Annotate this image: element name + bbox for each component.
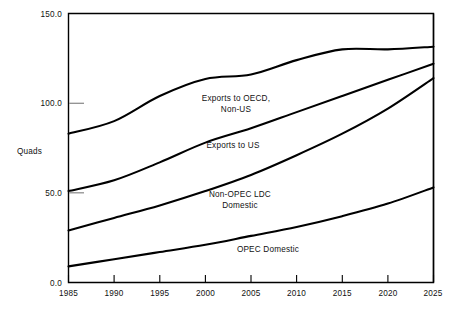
series-label-exports-to-us: Exports to US: [206, 141, 259, 150]
series-label-exports-oecd-line1: Exports to OECD,: [202, 94, 270, 103]
xtick-label-2025: 2025: [423, 289, 442, 298]
xtick-label-2020: 2020: [378, 289, 397, 298]
series-label-non-opec-ldc-line1: Non-OPEC LDC: [209, 190, 271, 199]
ytick-label-150: 150.0: [41, 10, 63, 19]
series-label-non-opec-ldc-line2: Domestic: [222, 201, 258, 210]
xtick-label-2005: 2005: [241, 289, 260, 298]
y-axis-title: Quads: [17, 147, 42, 156]
series-line-exports-oecd-non-us: [69, 47, 434, 134]
series-label-exports-oecd-line2: Non-US: [221, 105, 252, 114]
xtick-label-2015: 2015: [333, 289, 352, 298]
ytick-label-100: 100.0: [41, 99, 63, 108]
line-chart: 150.0 100.0 50.0 0.0 Quads 1985 1990 199…: [0, 0, 453, 315]
xtick-label-1985: 1985: [59, 289, 78, 298]
series-line-exports-to-us: [69, 64, 434, 191]
xtick-label-1990: 1990: [105, 289, 124, 298]
chart-figure: 150.0 100.0 50.0 0.0 Quads 1985 1990 199…: [0, 0, 453, 315]
xtick-label-1995: 1995: [150, 289, 169, 298]
xtick-label-2000: 2000: [196, 289, 215, 298]
series-label-opec-domestic: OPEC Domestic: [237, 245, 299, 254]
xtick-label-2010: 2010: [287, 289, 306, 298]
series-line-opec-domestic: [69, 187, 434, 266]
ytick-label-50: 50.0: [45, 189, 62, 198]
x-tick-marks: [69, 275, 434, 283]
ytick-label-0: 0.0: [50, 279, 62, 288]
